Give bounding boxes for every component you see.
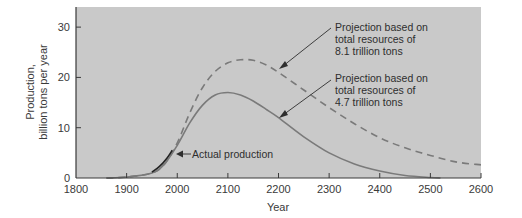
annotation-text: 4.7 trillion tons (335, 96, 403, 108)
annotation-text: total resources of (335, 84, 416, 96)
y-axis-title-line1: Production, (24, 64, 36, 120)
y-tick-label: 30 (58, 21, 70, 33)
x-tick-label: 1800 (64, 183, 88, 195)
y-tick-label: 0 (64, 172, 70, 184)
x-axis-title: Year (267, 201, 290, 213)
chart: 180019002000210022002300240025002600 010… (0, 0, 522, 218)
y-tick-label: 20 (58, 71, 70, 83)
x-tick-label: 2100 (216, 183, 240, 195)
annotation-text: 8.1 trillion tons (335, 45, 403, 57)
x-tick-label: 1900 (114, 183, 138, 195)
annotation-text: Actual production (192, 148, 273, 160)
annotation-text: Projection based on (335, 21, 428, 33)
x-tick-label: 2600 (469, 183, 493, 195)
y-tick-label: 10 (58, 122, 70, 134)
annotation-text: Projection based on (335, 72, 428, 84)
y-axis-title-line2: billion tons per year (37, 44, 49, 140)
x-tick-label: 2000 (165, 183, 189, 195)
annotation-text: total resources of (335, 33, 416, 45)
x-tick-label: 2200 (266, 183, 290, 195)
x-tick-label: 2500 (418, 183, 442, 195)
x-tick-label: 2400 (368, 183, 392, 195)
x-tick-label: 2300 (317, 183, 341, 195)
